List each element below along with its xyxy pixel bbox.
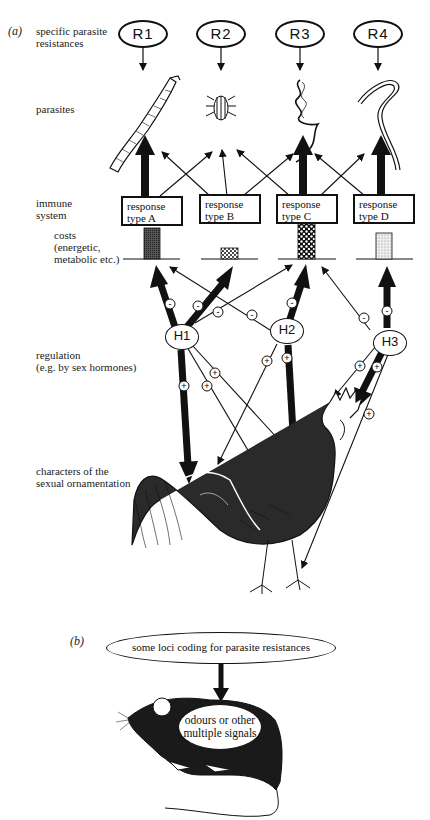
cost-bar-d xyxy=(376,233,392,259)
svg-text:+: + xyxy=(204,381,209,391)
svg-text:+: + xyxy=(181,381,186,391)
svg-text:+: + xyxy=(264,356,269,366)
svg-text:-: - xyxy=(386,306,389,316)
svg-text:+: + xyxy=(357,361,362,371)
svg-text:-: - xyxy=(169,299,172,309)
hormone-node-h2: H2 xyxy=(270,318,304,344)
cost-bar-a xyxy=(144,228,160,259)
response-d-line2: type D xyxy=(359,210,409,222)
svg-text:-: - xyxy=(363,313,366,323)
svg-text:-: - xyxy=(197,301,200,311)
response-a-line2: type A xyxy=(127,212,177,224)
response-box-a: response type A xyxy=(121,196,183,226)
resistance-node-r3: R3 xyxy=(275,20,325,48)
svg-text:-: - xyxy=(291,298,294,308)
rooster-illustration xyxy=(132,388,362,594)
svg-text:-: - xyxy=(217,307,220,317)
cost-bar-c xyxy=(298,224,315,259)
hormone-node-h3: H3 xyxy=(373,330,407,356)
response-c-line1: response xyxy=(282,198,332,210)
loci-oval-text: some loci coding for parasite resistance… xyxy=(132,641,310,653)
diagram-graphics: - - - - - - - + + + + + + + + xyxy=(0,0,430,820)
response-to-parasite-arrows xyxy=(135,135,391,196)
response-box-b: response type B xyxy=(199,194,261,224)
response-b-line1: response xyxy=(205,198,255,210)
resistance-node-r2: R2 xyxy=(196,20,246,48)
hormone-node-h1: H1 xyxy=(165,324,199,350)
svg-text:+: + xyxy=(212,368,217,378)
cost-bar-b xyxy=(221,248,238,259)
signals-line2: multiple signals xyxy=(179,727,261,740)
svg-text:+: + xyxy=(374,362,379,372)
signals-line1: odours or other xyxy=(179,714,261,727)
parasite-mite-icon xyxy=(206,96,236,120)
panel-b-tag: (b) xyxy=(70,634,84,649)
svg-text:+: + xyxy=(366,409,371,419)
resistance-node-r1: R1 xyxy=(118,20,168,48)
signals-oval: odours or other multiple signals xyxy=(178,704,262,750)
response-a-line1: response xyxy=(127,200,177,212)
response-box-d: response type D xyxy=(353,194,415,224)
resistance-node-r4: R4 xyxy=(353,20,403,48)
response-b-line2: type B xyxy=(205,210,255,222)
resistance-arrows xyxy=(143,46,378,70)
loci-oval: some loci coding for parasite resistance… xyxy=(106,632,336,664)
svg-text:+: + xyxy=(284,353,289,363)
cost-bars xyxy=(123,224,413,259)
svg-text:-: - xyxy=(251,310,254,320)
response-d-line1: response xyxy=(359,198,409,210)
response-c-line2: type C xyxy=(282,210,332,222)
response-box-c: response type C xyxy=(276,194,338,224)
